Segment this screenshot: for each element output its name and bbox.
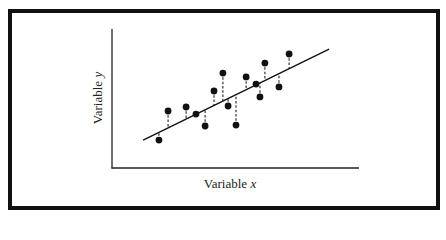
data-point xyxy=(193,111,200,118)
data-point xyxy=(211,88,218,95)
data-point xyxy=(202,123,209,130)
data-point xyxy=(233,122,240,129)
data-point xyxy=(183,104,190,111)
y-axis-label: Variable y xyxy=(90,72,106,124)
data-point xyxy=(286,51,293,58)
data-point xyxy=(243,74,250,81)
data-point xyxy=(165,108,172,115)
data-points xyxy=(156,51,293,144)
data-point xyxy=(156,137,163,144)
x-axis-label: Variable x xyxy=(204,176,256,192)
data-point xyxy=(276,84,283,91)
data-point xyxy=(220,70,227,77)
residual-lines xyxy=(159,54,289,140)
data-point xyxy=(261,60,268,67)
data-point xyxy=(257,94,264,101)
data-point xyxy=(225,103,232,110)
axes xyxy=(112,29,360,169)
data-point xyxy=(253,81,260,88)
